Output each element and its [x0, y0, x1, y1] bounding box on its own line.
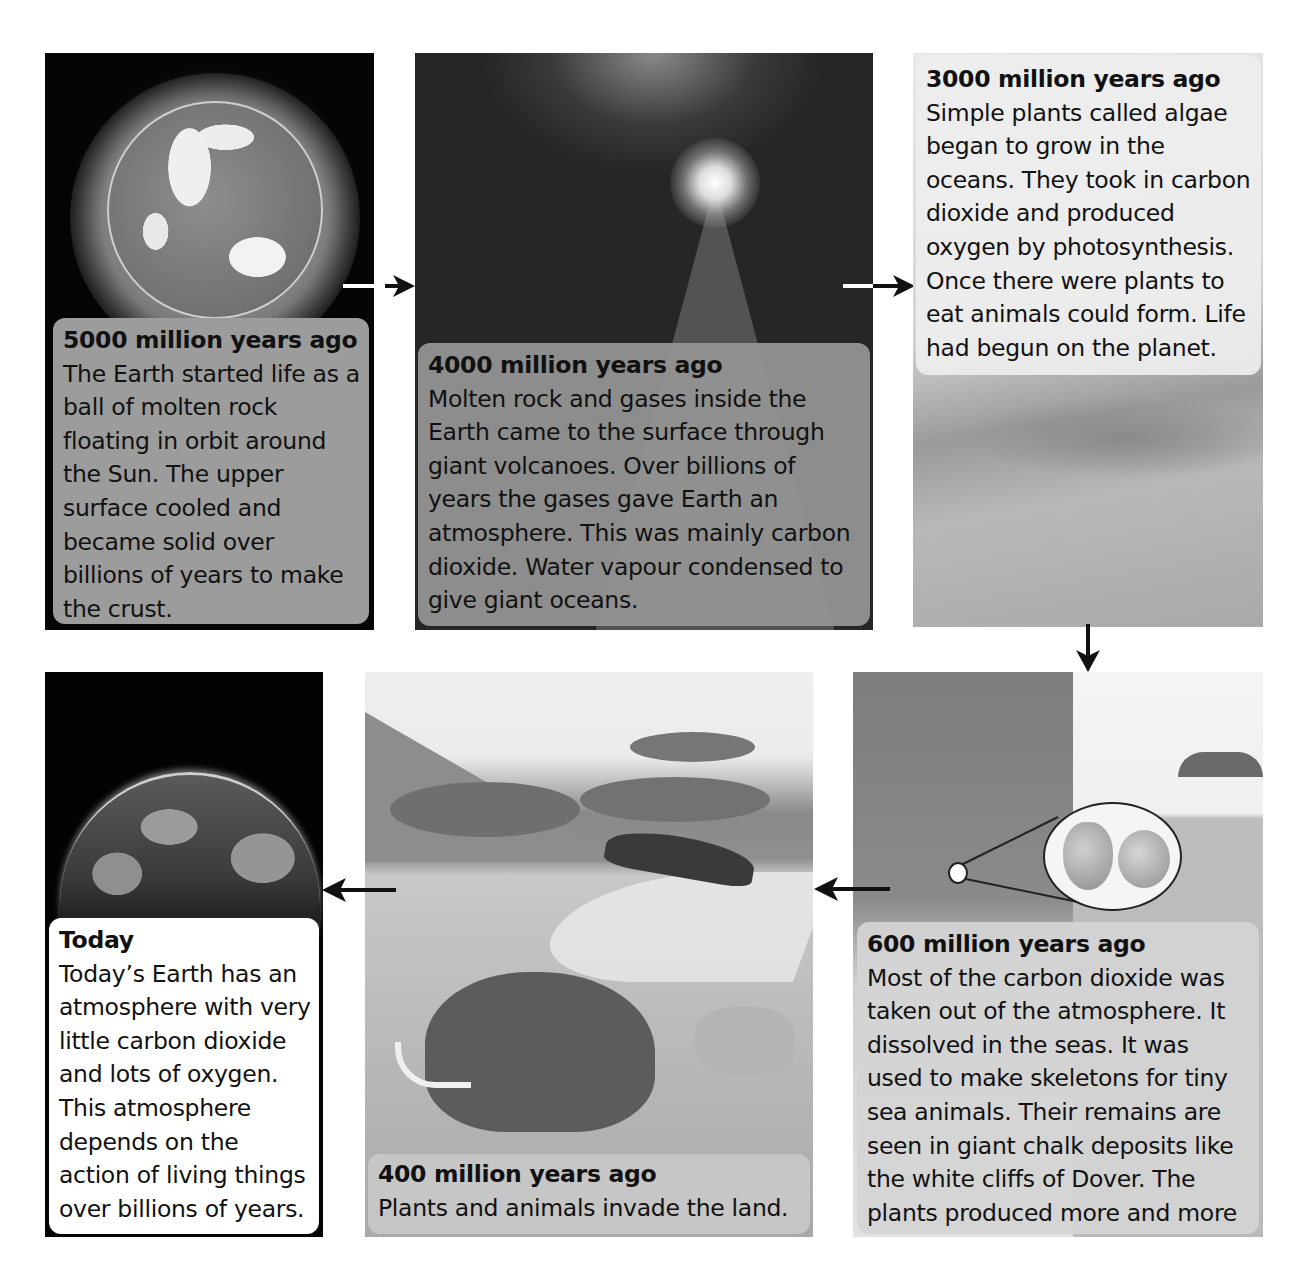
caption-body: Today’s Earth has an atmosphere with ver… — [59, 958, 311, 1227]
caption-600: 600 million years ago Most of the carbon… — [857, 922, 1259, 1234]
panel-3000-million-years: 3000 million years ago Simple plants cal… — [913, 53, 1263, 627]
panel-5000-million-years: 5000 million years ago The Earth started… — [45, 53, 374, 630]
clouds-icon — [913, 383, 1263, 493]
acacia-tree-icon — [630, 732, 755, 762]
foraminifera-fossil-icon — [1063, 822, 1113, 890]
arrow-right-icon — [843, 275, 915, 297]
caption-body: Molten rock and gases inside the Earth c… — [428, 383, 862, 618]
acacia-tree-icon — [390, 782, 580, 837]
panel-400-million-years: 400 million years ago Plants and animals… — [365, 672, 813, 1237]
panel-4000-million-years: 4000 million years ago Molten rock and g… — [415, 53, 873, 630]
caption-5000: 5000 million years ago The Earth started… — [53, 318, 369, 624]
caption-title: 400 million years ago — [378, 1158, 802, 1192]
caption-title: 3000 million years ago — [926, 63, 1253, 97]
molten-earth-globe-icon — [107, 101, 323, 319]
foraminifera-fossil-icon — [1118, 830, 1170, 888]
caption-title: 5000 million years ago — [63, 324, 361, 358]
caption-today: Today Today’s Earth has an atmosphere wi… — [49, 918, 319, 1234]
caption-body: Simple plants called algae began to grow… — [926, 97, 1253, 366]
magnifier-source-circle — [948, 862, 968, 884]
panel-600-million-years: 600 million years ago Most of the carbon… — [853, 672, 1263, 1237]
caption-400: 400 million years ago Plants and animals… — [368, 1154, 810, 1234]
caption-body: Most of the carbon dioxide was taken out… — [867, 962, 1251, 1237]
arrow-down-icon — [1076, 624, 1100, 672]
caption-title: 4000 million years ago — [428, 349, 862, 383]
wolf-icon — [695, 1007, 795, 1077]
panel-today: Today Today’s Earth has an atmosphere wi… — [45, 672, 323, 1237]
mammoth-tusk-icon — [395, 1042, 471, 1088]
arrow-left-icon — [322, 878, 396, 902]
caption-body: The Earth started life as a ball of molt… — [63, 358, 361, 627]
caption-4000: 4000 million years ago Molten rock and g… — [418, 343, 870, 626]
caption-3000: 3000 million years ago Simple plants cal… — [916, 55, 1261, 375]
arrow-right-icon — [343, 275, 415, 297]
eruption-glow — [670, 138, 760, 228]
caption-title: 600 million years ago — [867, 928, 1251, 962]
cropped-top-caption — [45, 0, 1025, 6]
river-icon — [535, 872, 813, 982]
caption-title: Today — [59, 924, 311, 958]
acacia-tree-icon — [580, 777, 770, 822]
caption-body: Plants and animals invade the land. — [378, 1192, 802, 1226]
arrow-left-icon — [814, 877, 890, 901]
